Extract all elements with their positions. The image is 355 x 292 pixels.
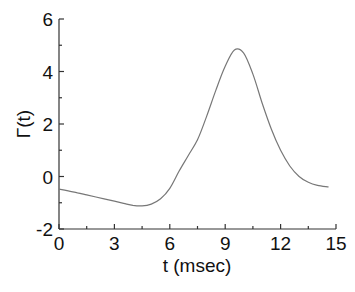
- tick-labels: 03691215-20246: [36, 9, 346, 254]
- y-axis-title: Γ(t): [13, 110, 34, 138]
- chart: 03691215-20246 t (msec) Γ(t): [0, 0, 355, 292]
- x-tick-label: 9: [220, 233, 231, 254]
- y-tick-label: 0: [42, 167, 53, 188]
- data-line: [59, 49, 329, 206]
- y-tick-label: 2: [42, 114, 53, 135]
- y-tick-label: -2: [36, 219, 53, 240]
- x-tick-label: 0: [54, 233, 65, 254]
- x-tick-label: 6: [165, 233, 176, 254]
- x-axis-title: t (msec): [163, 255, 232, 276]
- y-tick-label: 4: [42, 62, 53, 83]
- y-tick-label: 6: [42, 9, 53, 30]
- x-tick-label: 15: [325, 233, 346, 254]
- x-tick-label: 3: [109, 233, 120, 254]
- x-tick-label: 12: [270, 233, 291, 254]
